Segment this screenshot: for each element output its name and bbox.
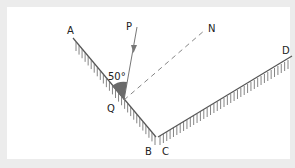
mirror-ab <box>73 38 156 145</box>
arrow-icon <box>131 45 137 53</box>
label-q: Q <box>107 103 115 114</box>
label-d: D <box>282 45 290 56</box>
mirror-diagram: A P N D 50° Q B C <box>0 0 295 168</box>
label-c: C <box>162 146 169 157</box>
mirror-cd <box>158 56 292 145</box>
label-b: B <box>145 146 152 157</box>
label-angle: 50° <box>108 71 126 82</box>
incident-ray <box>124 27 137 100</box>
label-n: N <box>208 23 215 34</box>
label-p: P <box>126 21 132 32</box>
label-a: A <box>67 25 74 36</box>
normal-line <box>124 30 205 100</box>
